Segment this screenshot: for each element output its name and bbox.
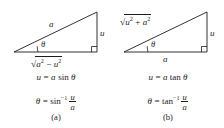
radical-symbol-a: √ bbox=[31, 60, 36, 69]
equation-b-2-fraction: ua bbox=[181, 93, 188, 112]
equation-a-1-function: sin bbox=[58, 72, 69, 82]
trig-substitution-figure: a u θ √a2−u2 u=a sin θ θ=sin−1ua (a) √u2… bbox=[0, 0, 224, 128]
caption-a: (a) bbox=[0, 113, 112, 122]
triangle-a-outline bbox=[14, 12, 97, 52]
equation-b-2-denominator: a bbox=[181, 102, 188, 111]
radical-symbol-b: √ bbox=[120, 18, 125, 27]
caption-b: (b) bbox=[112, 113, 224, 122]
equation-b-1: u=a tan θ bbox=[112, 73, 224, 82]
equation-b-1-argument: θ bbox=[183, 72, 187, 82]
equation-b-1-equals: = bbox=[156, 72, 161, 82]
triangle-a-graphic bbox=[0, 0, 112, 60]
equation-a-2-numerator: u bbox=[69, 93, 76, 103]
panel-a: a u θ √a2−u2 u=a sin θ θ=sin−1ua (a) bbox=[0, 0, 112, 128]
equation-a-1: u=a sin θ bbox=[0, 73, 112, 82]
radicand-b-operator: + bbox=[135, 17, 140, 27]
radicand-b: u2+a2 bbox=[124, 14, 151, 27]
radicand-a-term1-exponent: 2 bbox=[41, 58, 44, 64]
equation-a-1-argument: θ bbox=[71, 72, 75, 82]
angle-arc-b bbox=[147, 46, 148, 52]
equation-a-2: θ=sin−1ua bbox=[0, 93, 112, 112]
triangle-a-opposite-label: u bbox=[100, 29, 105, 38]
equation-b-1-lhs: u bbox=[149, 72, 154, 82]
equation-a-2-function: sin bbox=[50, 96, 61, 106]
right-angle-marker-b bbox=[202, 47, 208, 53]
radicand-b-term2-exponent: 2 bbox=[147, 16, 150, 22]
equation-a-1-equals: = bbox=[43, 72, 48, 82]
right-angle-marker-a bbox=[92, 47, 98, 53]
equation-a-2-fraction: ua bbox=[69, 93, 76, 112]
radicand-b-term1-exponent: 2 bbox=[130, 16, 133, 22]
panel-b: √u2+a2 u θ a u=a tan θ θ=tan−1ua (b) bbox=[112, 0, 224, 128]
triangle-a-adjacent-label: √a2−u2 bbox=[31, 56, 62, 69]
triangle-a-hypotenuse-label: a bbox=[49, 20, 54, 29]
equation-a-2-equals: = bbox=[43, 96, 48, 106]
equation-b-2-lhs: θ bbox=[148, 96, 152, 106]
triangle-b-opposite-label: u bbox=[210, 29, 215, 38]
triangle-b-angle-label: θ bbox=[151, 40, 155, 49]
equation-b-2-equals: = bbox=[155, 96, 160, 106]
radicand-a-term2-exponent: 2 bbox=[58, 58, 61, 64]
triangle-b-hypotenuse-label: √u2+a2 bbox=[120, 14, 151, 27]
angle-arc-a bbox=[37, 46, 38, 52]
equation-b-2-numerator: u bbox=[181, 93, 188, 103]
equation-a-2-denominator: a bbox=[69, 102, 76, 111]
equation-b-2-exponent: −1 bbox=[173, 95, 180, 101]
triangle-a-angle-label: θ bbox=[41, 40, 45, 49]
triangle-b-adjacent-label: a bbox=[163, 55, 168, 64]
equation-b-1-function: tan bbox=[170, 72, 181, 82]
equation-a-2-exponent: −1 bbox=[61, 95, 68, 101]
equation-b-2-function: tan bbox=[162, 96, 173, 106]
triangle-b-graphic bbox=[112, 0, 224, 60]
equation-b-2: θ=tan−1ua bbox=[112, 93, 224, 112]
radicand-a-operator: − bbox=[46, 59, 51, 69]
equation-a-2-lhs: θ bbox=[36, 96, 40, 106]
radicand-a: a2−u2 bbox=[35, 56, 62, 69]
equation-a-1-lhs: u bbox=[36, 72, 41, 82]
